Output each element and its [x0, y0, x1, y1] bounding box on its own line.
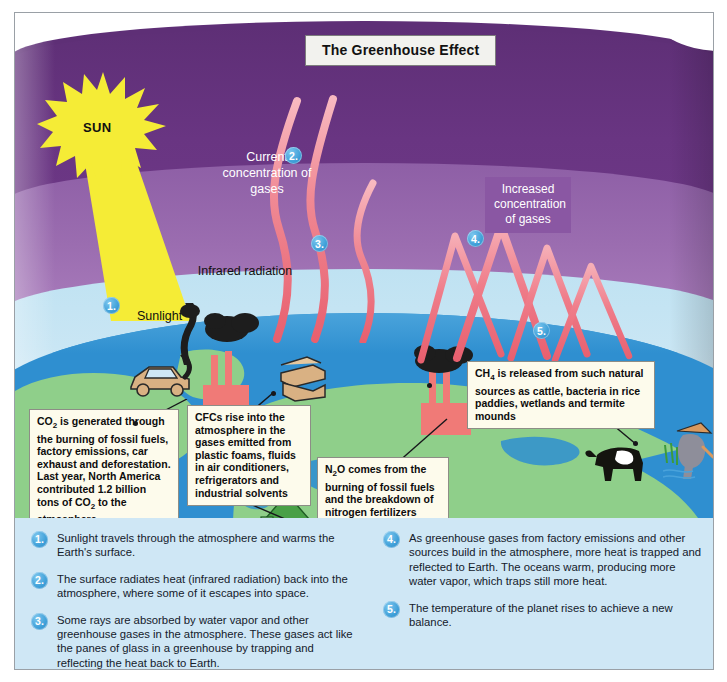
marker-1: 1.	[103, 297, 120, 314]
cfc-callout: CFCs rise into the atmosphere in the gas…	[187, 405, 311, 506]
legend-text-4: As greenhouse gases from factory emissio…	[409, 532, 701, 587]
legend-item-2: 2. The surface radiates heat (infrared r…	[31, 572, 361, 601]
marker-3: 3.	[311, 235, 328, 252]
legend-panel: 1. Sunlight travels through the atmosphe…	[15, 516, 714, 669]
legend-text-5: The temperature of the planet rises to a…	[409, 602, 673, 628]
sun-icon: SUN	[37, 68, 169, 188]
legend-marker-3: 3.	[31, 613, 48, 630]
legend-marker-2: 2.	[31, 572, 48, 589]
leader-dot-co2	[133, 421, 138, 426]
marker-4: 4.	[467, 230, 484, 247]
sun-label: SUN	[83, 120, 112, 135]
page-title-text: The Greenhouse Effect	[322, 42, 479, 58]
marker-5: 5.	[533, 322, 550, 339]
infographic-frame: SUN	[14, 12, 714, 670]
legend-column-left: 1. Sunlight travels through the atmosphe…	[31, 531, 361, 670]
greenhouse-effect-infographic: SUN	[0, 0, 727, 682]
page-title: The Greenhouse Effect	[305, 35, 496, 66]
legend-item-5: 5. The temperature of the planet rises t…	[383, 601, 705, 630]
legend-marker-5: 5.	[383, 601, 400, 618]
legend-item-4: 4. As greenhouse gases from factory emis…	[383, 531, 705, 589]
marker-2: 2.	[285, 147, 302, 164]
legend-item-1: 1. Sunlight travels through the atmosphe…	[31, 531, 361, 560]
infrared-radiation-label: Infrared radiation	[193, 263, 297, 279]
legend-marker-1: 1.	[31, 531, 48, 548]
increased-concentration-label: Increased concentration of gases	[485, 177, 571, 233]
scene: SUN	[15, 13, 714, 518]
n2o-callout: N2O comes from the burning of fossil fue…	[317, 457, 449, 518]
leader-dot-n2o	[427, 383, 432, 388]
legend-item-3: 3. Some rays are absorbed by water vapor…	[31, 613, 361, 670]
leader-dot-cfc	[271, 391, 276, 396]
legend-column-right: 4. As greenhouse gases from factory emis…	[383, 531, 705, 641]
legend-text-2: The surface radiates heat (infrared radi…	[57, 573, 348, 599]
co2-callout: CO2 is generated through the burning of …	[29, 409, 179, 518]
factory-smoke-icon-left	[201, 305, 263, 359]
leader-dot-ch4	[633, 441, 638, 446]
legend-text-3: Some rays are absorbed by water vapor an…	[57, 614, 353, 669]
legend-text-1: Sunlight travels through the atmosphere …	[57, 532, 335, 558]
current-concentration-label: Current concentration of gases	[213, 149, 321, 197]
rice-farmer-icon	[663, 413, 714, 485]
legend-marker-4: 4.	[383, 531, 400, 548]
ch4-callout: CH4 is released from such natural source…	[467, 361, 655, 429]
